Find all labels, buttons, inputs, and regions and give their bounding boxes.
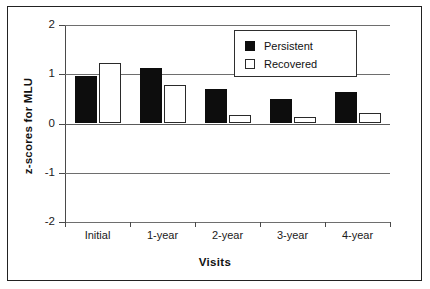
bar-recovered-initial [99, 63, 121, 124]
bar-persistent-3-year [270, 99, 292, 123]
bar-recovered-1-year [164, 85, 186, 123]
gridline [65, 124, 390, 125]
gridline [65, 222, 390, 223]
y-tick-label: -1 [29, 167, 55, 179]
y-tick-label: 1 [29, 68, 55, 80]
bar-recovered-2-year [229, 115, 251, 123]
legend-label-persistent: Persistent [264, 41, 313, 52]
x-axis-title: Visits [0, 256, 430, 268]
legend-swatch-filled-square-icon [245, 41, 255, 51]
y-tick [59, 25, 65, 26]
legend-item-persistent: Persistent [245, 37, 356, 55]
gridline [65, 25, 390, 26]
y-tick [59, 173, 65, 174]
bar-persistent-2-year [205, 89, 227, 123]
bar-recovered-4-year [359, 113, 381, 123]
legend-label-recovered: Recovered [264, 59, 317, 70]
x-tick-label: 4-year [323, 229, 393, 241]
x-tick [260, 222, 261, 227]
x-tick [65, 222, 66, 227]
y-tick-label: 2 [29, 19, 55, 31]
chart-figure: z-scores for MLU Visits 210-1-2 Initial1… [0, 0, 430, 289]
bar-persistent-1-year [140, 68, 162, 124]
y-tick [59, 124, 65, 125]
x-tick [130, 222, 131, 227]
legend-item-recovered: Recovered [245, 55, 356, 73]
legend-swatch-hollow-square-icon [245, 59, 255, 69]
y-tick-label: 0 [29, 118, 55, 130]
chart-legend: Persistent Recovered [234, 30, 357, 77]
x-tick [390, 222, 391, 227]
bar-persistent-initial [75, 76, 97, 123]
x-tick [325, 222, 326, 227]
bar-recovered-3-year [294, 117, 316, 124]
x-tick-label: 1-year [128, 229, 198, 241]
gridline [65, 173, 390, 174]
y-tick-label: -2 [29, 216, 55, 228]
bar-persistent-4-year [335, 92, 357, 123]
y-tick [59, 74, 65, 75]
x-tick-label: 2-year [193, 229, 263, 241]
x-tick-label: 3-year [258, 229, 328, 241]
x-tick [195, 222, 196, 227]
x-tick-label: Initial [63, 229, 133, 241]
